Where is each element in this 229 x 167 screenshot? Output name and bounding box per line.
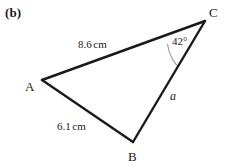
- triangle-side-bc: [133, 21, 205, 142]
- angle-label-c: 42°: [172, 36, 187, 47]
- vertex-label-a: A: [25, 80, 34, 93]
- figure-canvas: (b) A B C 8.6cm 6.1cm a 42°: [0, 0, 229, 167]
- side-length-label-ab: 6.1cm: [57, 121, 86, 132]
- triangle-side-ab: [42, 80, 133, 142]
- vertex-label-b: B: [128, 150, 137, 163]
- side-ac-unit: cm: [93, 38, 106, 50]
- triangle-side-ac: [42, 21, 205, 80]
- side-ab-unit: cm: [72, 120, 85, 132]
- side-length-label-ac: 8.6cm: [78, 39, 107, 50]
- angle-arc-c: [168, 44, 177, 66]
- vertex-label-c: C: [209, 6, 218, 19]
- side-unknown-label-a: a: [170, 90, 176, 102]
- side-ab-value: 6.1: [57, 120, 71, 132]
- part-label: (b): [5, 6, 21, 19]
- side-ac-value: 8.6: [78, 38, 92, 50]
